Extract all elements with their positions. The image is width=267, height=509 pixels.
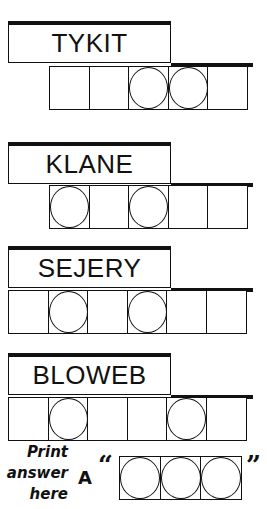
scrambled-word-4: BLOWEB (8, 353, 171, 395)
open-quote: “ (98, 450, 113, 480)
letter-cell[interactable] (89, 185, 130, 229)
scrambled-word-3: SEJERY (8, 246, 171, 288)
close-quote: ” (246, 450, 261, 480)
answer-cells-4 (8, 397, 247, 441)
circled-letter-cell[interactable] (127, 290, 168, 334)
letter-cell[interactable] (127, 397, 168, 441)
circled-letter-cell[interactable] (168, 66, 209, 110)
final-answer-cell[interactable] (200, 456, 242, 500)
answer-prefix: A (78, 467, 92, 488)
final-answer-cell[interactable] (119, 456, 161, 500)
letter-cell[interactable] (49, 66, 90, 110)
letter-cell[interactable] (8, 397, 49, 441)
scrambled-word-2: KLANE (8, 142, 171, 184)
answer-cells-1 (49, 66, 248, 110)
answer-cells-2 (49, 185, 248, 229)
letter-cell[interactable] (87, 290, 128, 334)
answer-instruction: Print answer here (2, 442, 68, 505)
instruction-line-1: Print (2, 442, 68, 463)
final-answer-cell[interactable] (160, 456, 202, 500)
letter-cell[interactable] (206, 290, 247, 334)
final-answer-cells (119, 456, 242, 500)
circled-letter-cell[interactable] (128, 185, 169, 229)
circled-letter-cell[interactable] (128, 66, 169, 110)
circled-letter-cell[interactable] (48, 290, 89, 334)
circled-letter-cell[interactable] (166, 397, 207, 441)
instruction-line-3: here (2, 484, 68, 505)
circled-letter-cell[interactable] (49, 185, 90, 229)
circled-letter-cell[interactable] (48, 397, 89, 441)
letter-cell[interactable] (207, 66, 248, 110)
scrambled-word-1: TYKIT (8, 21, 171, 63)
letter-cell[interactable] (166, 290, 207, 334)
letter-cell[interactable] (87, 397, 128, 441)
answer-cells-3 (8, 290, 247, 334)
letter-cell[interactable] (207, 185, 248, 229)
letter-cell[interactable] (206, 397, 247, 441)
letter-cell[interactable] (8, 290, 49, 334)
letter-cell[interactable] (168, 185, 209, 229)
instruction-line-2: answer (2, 463, 68, 484)
letter-cell[interactable] (89, 66, 130, 110)
